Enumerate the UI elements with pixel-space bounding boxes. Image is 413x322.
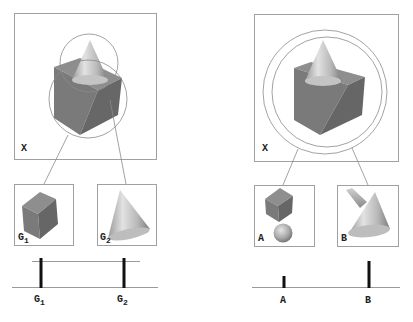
thumbnail-g1: G1 — [15, 185, 74, 246]
thumbnail-b-label: B — [341, 233, 347, 244]
right-scene-label: X — [262, 143, 268, 154]
thumbnail-g2: G2 — [98, 185, 157, 246]
left-bar-g2 — [123, 258, 126, 288]
right-panel: X A B A B — [252, 15, 400, 307]
svg-text:G2: G2 — [117, 294, 128, 307]
right-bar-a — [283, 276, 286, 288]
left-panel: X G1 G2 G1 G2 — [12, 14, 158, 308]
thumbnail-a: A — [255, 186, 315, 247]
thumbnail-a-sphere-icon — [274, 224, 293, 243]
thumbnail-g2-subscript: 2 — [106, 236, 111, 245]
right-bar-b — [368, 261, 371, 288]
svg-text:G1: G1 — [34, 294, 45, 307]
right-tick-label-b: B — [365, 295, 371, 306]
left-bar-g1 — [40, 258, 43, 288]
right-tick-label-a: A — [280, 295, 286, 306]
thumbnail-b: B — [338, 186, 399, 247]
diagram: X G1 G2 G1 G2 — [0, 0, 413, 322]
left-scene-label: X — [21, 143, 27, 154]
thumbnail-a-label: A — [258, 233, 264, 244]
thumbnail-g1-subscript: 1 — [24, 236, 29, 245]
